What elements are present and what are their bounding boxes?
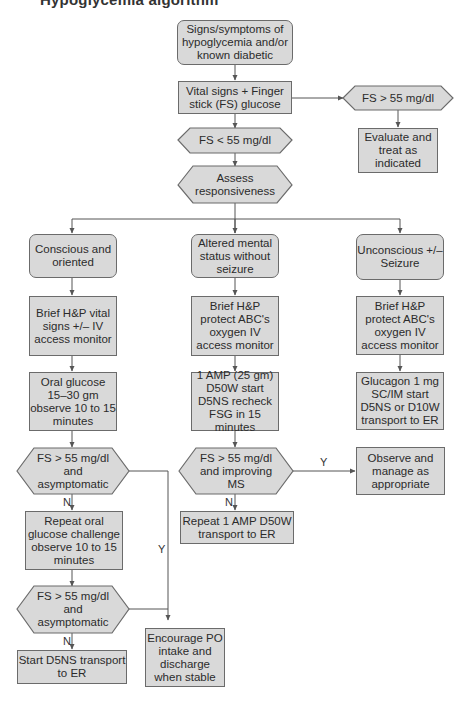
node-hp-mid: Brief H&P protect ABC's oxygen IV access…	[191, 296, 279, 356]
node-start-d5ns: Start D5NS transport to ER	[17, 650, 127, 684]
node-glucagon: Glucagon 1 mg SC/IM start D5NS or D10W t…	[356, 372, 444, 430]
decision-fs-high: FS > 55 mg/dl	[355, 86, 441, 110]
node-conscious: Conscious and oriented	[29, 234, 117, 278]
node-altered: Altered mental status without seizure	[191, 234, 279, 278]
decision-fs-low: FS < 55 mg/dl	[190, 128, 280, 153]
edge-label-no-left2: N	[63, 635, 71, 647]
node-repeat-oral: Repeat oral glucose challenge observe 10…	[25, 511, 123, 570]
node-vital-signs: Vital signs + Finger stick (FS) glucose	[178, 81, 292, 114]
node-amp-d50w: 1 AMP (25 gm) D50W start D5NS recheck FS…	[191, 372, 279, 431]
decision-left2: FS > 55 mg/dl and asymptomatic	[30, 586, 116, 633]
node-evaluate: Evaluate and treat as indicated	[358, 128, 438, 173]
node-encourage: Encourage PO intake and discharge when s…	[145, 628, 225, 687]
decision-mid: FS > 55 mg/dl and improving MS	[194, 448, 278, 494]
node-hp-left: Brief H&P vital signs +/– IV access moni…	[29, 296, 117, 356]
node-oral-glucose: Oral glucose 15–30 gm observe 10 to 15 m…	[29, 372, 117, 431]
edge-label-no-left1: N	[63, 496, 71, 508]
edge-label-yes-mid: Y	[320, 456, 327, 468]
edge-label-no-mid: N	[225, 496, 233, 508]
node-hp-right: Brief H&P protect ABC's oxygen IV access…	[356, 296, 444, 355]
node-observe: Observe and manage as appropriate	[356, 447, 445, 495]
decision-assess: Assess responsiveness	[193, 166, 277, 203]
node-unconscious: Unconscious +/– Seizure	[356, 234, 444, 280]
decision-left1: FS > 55 mg/dl and asymptomatic	[30, 448, 116, 494]
edge-label-yes-left: Y	[158, 543, 165, 555]
node-start: Signs/symptoms of hypoglycemia and/or kn…	[177, 20, 293, 65]
node-repeat-amp: Repeat 1 AMP D50W transport to ER	[180, 511, 294, 544]
